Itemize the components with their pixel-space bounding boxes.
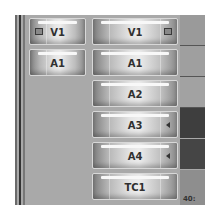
track-label: TC1 [93, 182, 177, 193]
track-strip-a1 [180, 46, 205, 77]
track-label: A4 [93, 151, 177, 162]
panel-divider [23, 15, 25, 205]
panel-divider [19, 15, 21, 205]
timecode-fragment: 40: [183, 195, 196, 203]
track-label: V1 [30, 27, 85, 38]
track-strip-a2 [180, 77, 205, 108]
track-label: A1 [30, 58, 85, 69]
track-label: A1 [93, 58, 177, 69]
record-track-a2[interactable]: A2 [92, 80, 178, 107]
track-strip-a4 [180, 139, 205, 169]
panel-border [15, 15, 17, 205]
source-track-a1[interactable]: A1 [29, 49, 86, 76]
record-track-a3[interactable]: A3 [92, 111, 178, 138]
track-label: A3 [93, 120, 177, 131]
source-track-v1[interactable]: V1 [29, 18, 86, 45]
record-track-v1[interactable]: V1 [92, 18, 178, 45]
record-track-a4[interactable]: A4 [92, 142, 178, 169]
track-panel: 40: V1 A1 V1 A1 A2 A3 A4 TC1 [15, 15, 205, 205]
record-track-tc1[interactable]: TC1 [92, 173, 178, 200]
track-label: V1 [93, 27, 177, 38]
track-strip-a3 [180, 108, 205, 138]
track-label: A2 [93, 89, 177, 100]
track-strip-v1 [180, 15, 205, 46]
record-track-a1[interactable]: A1 [92, 49, 178, 76]
